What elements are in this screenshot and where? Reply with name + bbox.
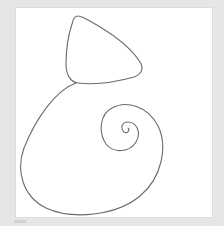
rounded-triangle-shape [66,16,142,84]
sketch-canvas [16,8,212,217]
spiral-shape [21,83,163,215]
drawing-panel [16,8,212,217]
caption-mark [14,220,26,223]
